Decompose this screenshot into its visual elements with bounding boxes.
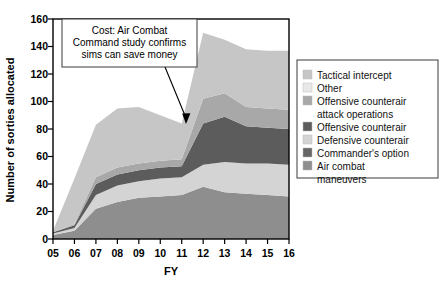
legend-label: Other (317, 83, 343, 94)
legend-label-continued: attack operations (317, 109, 393, 120)
x-tick-label: 16 (283, 247, 295, 259)
x-tick-label: 09 (133, 247, 145, 259)
legend-swatch (303, 96, 312, 105)
legend-label-continued: maneuvers (317, 174, 366, 185)
legend-swatch (303, 70, 312, 79)
y-tick-label: 140 (30, 40, 48, 52)
x-tick-label: 10 (154, 247, 166, 259)
y-axis-title: Number of sorties allocated (4, 58, 16, 203)
y-tick-label: 160 (30, 13, 48, 25)
x-tick-label: 11 (176, 247, 187, 259)
x-tick-label: 15 (262, 247, 274, 259)
x-tick-label: 12 (197, 247, 209, 259)
x-axis-title: FY (164, 265, 179, 277)
legend-swatch (303, 161, 312, 170)
x-tick-label: 06 (69, 247, 81, 259)
x-tick-label: 05 (47, 247, 59, 259)
legend-label: Defensive counterair (317, 135, 409, 146)
x-tick-label: 07 (90, 247, 102, 259)
legend-swatch (303, 122, 312, 131)
x-tick-label: 13 (219, 247, 231, 259)
callout-line-2: Command study confirms (73, 37, 186, 48)
legend-swatch (303, 83, 312, 92)
y-tick-label: 80 (36, 123, 48, 135)
y-tick-label: 20 (36, 205, 48, 217)
stacked-area-chart: Number of sorties allocated 160 140 120 … (0, 0, 442, 290)
legend-label: Offensive counterair (317, 96, 407, 107)
y-tick-label: 100 (30, 95, 48, 107)
callout-line-1: Cost: Air Combat (92, 25, 168, 36)
y-tick-label: 60 (36, 150, 48, 162)
legend: Tactical interceptOtherOffensive counter… (297, 60, 438, 185)
y-tick-label: 0 (42, 233, 48, 245)
legend-label: Air combat (317, 161, 365, 172)
y-tick-label: 120 (30, 68, 48, 80)
x-tick-label: 14 (240, 247, 252, 259)
legend-label: Tactical intercept (317, 70, 392, 81)
callout-line-3: sims can save money (81, 49, 177, 60)
y-tick-label: 40 (36, 178, 48, 190)
legend-swatch (303, 135, 312, 144)
legend-swatch (303, 148, 312, 157)
legend-label: Commander's option (317, 148, 409, 159)
legend-label: Offensive counterair (317, 122, 407, 133)
x-tick-label: 08 (112, 247, 124, 259)
